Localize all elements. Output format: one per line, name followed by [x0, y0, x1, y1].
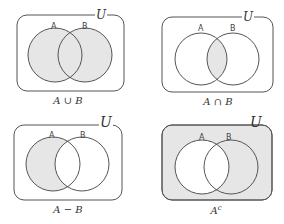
- venn-union-panel: U A B A ∪ B: [0, 0, 142, 112]
- caption: A ∪ B: [0, 95, 139, 106]
- universe-label: U: [242, 11, 254, 23]
- venn-complement-panel: U A B Ac: [142, 112, 284, 224]
- caption: Ac: [145, 204, 284, 216]
- set-a-label: A: [51, 22, 56, 31]
- universe-label: U: [99, 116, 113, 128]
- venn-intersection-panel: U A B A ∩ B: [142, 0, 284, 112]
- set-b-label: B: [82, 22, 88, 31]
- caption: A ∩ B: [147, 96, 284, 107]
- set-b-label: B: [80, 131, 86, 140]
- set-b-label: B: [226, 133, 232, 142]
- caption: A − B: [0, 204, 139, 215]
- venn-difference-panel: U A B A − B: [0, 112, 142, 224]
- set-a-label: A: [199, 133, 204, 142]
- universe-label: U: [249, 116, 263, 128]
- caption-base: A: [210, 205, 217, 216]
- set-a-label: A: [49, 131, 54, 140]
- set-b-label: B: [230, 24, 236, 33]
- set-a-label: A: [198, 24, 203, 33]
- universe-label: U: [95, 9, 107, 21]
- caption-superscript: c: [218, 204, 222, 212]
